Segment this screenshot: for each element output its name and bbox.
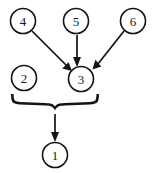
edge-brace-to-1-arrowhead [51,132,59,142]
edge-6-to-3-line [98,31,125,65]
node-5-label: 5 [73,14,80,29]
edge-4-to-3-line [32,31,68,67]
edge-brace-to-1 [51,114,59,142]
node-6[interactable]: 6 [121,9,146,34]
grouping-brace [11,94,99,111]
node-2[interactable]: 2 [12,66,37,91]
diagram-canvas: 4 5 6 2 3 1 [0,0,158,173]
edge-4-to-3 [32,31,72,71]
node-3-label: 3 [78,72,85,87]
node-1[interactable]: 1 [43,143,68,168]
node-4[interactable]: 4 [11,9,36,34]
edge-5-to-3-arrowhead [73,57,81,67]
edge-6-to-3 [93,31,125,70]
brace-path [11,94,99,111]
node-1-label: 1 [52,148,59,163]
node-5[interactable]: 5 [64,9,89,34]
node-6-label: 6 [130,14,137,29]
edge-5-to-3 [73,35,81,67]
node-2-label: 2 [21,71,28,86]
diagram-svg: 4 5 6 2 3 1 [0,0,158,173]
node-3[interactable]: 3 [69,67,94,92]
node-4-label: 4 [20,14,27,29]
